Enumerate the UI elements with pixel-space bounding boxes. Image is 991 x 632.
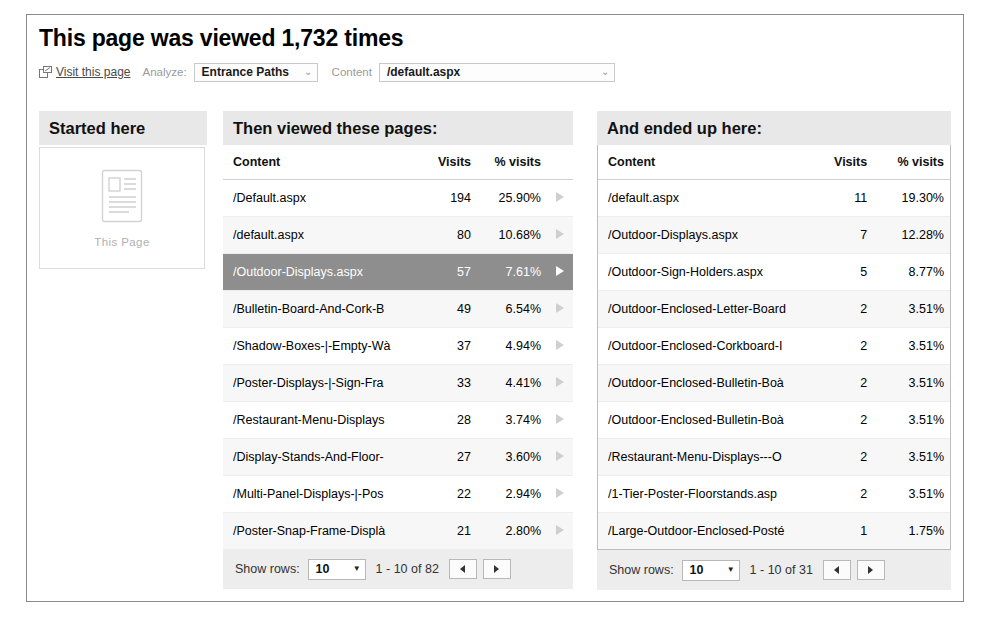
- analyze-label: Analyze:: [143, 66, 187, 78]
- show-rows-value: 10: [309, 562, 349, 576]
- table-row[interactable]: /Poster-Displays-|-Sign-Fra334.41%: [223, 365, 573, 402]
- then-viewed-rows: /Default.aspx19425.90%/default.aspx8010.…: [223, 180, 573, 550]
- row-content-cell[interactable]: /Outdoor-Enclosed-Letter-Board: [598, 291, 819, 328]
- row-pct-cell: 25.90%: [479, 180, 547, 217]
- row-content-cell[interactable]: /Outdoor-Sign-Holders.aspx: [598, 254, 819, 291]
- row-drilldown-button[interactable]: [547, 476, 573, 513]
- row-content-cell[interactable]: /Outdoor-Enclosed-Corkboard-I: [598, 328, 819, 365]
- then-viewed-heading: Then viewed these pages:: [233, 119, 437, 138]
- this-page-card[interactable]: This Page: [39, 147, 205, 269]
- row-content-cell[interactable]: /Bulletin-Board-And-Cork-B: [223, 291, 427, 328]
- analyze-select-value: Entrance Paths: [195, 65, 299, 79]
- chevron-down-icon: ▼: [349, 565, 365, 573]
- row-drilldown-button[interactable]: [547, 291, 573, 328]
- column-header-content[interactable]: Content: [598, 145, 819, 180]
- row-pct-cell: 6.54%: [479, 291, 547, 328]
- triangle-right-icon: [556, 414, 564, 424]
- column-header-content[interactable]: Content: [223, 145, 427, 180]
- pager-next-button[interactable]: [857, 560, 885, 580]
- row-content-cell[interactable]: /default.aspx: [223, 217, 427, 254]
- row-pct-cell: 10.68%: [479, 217, 547, 254]
- table-row[interactable]: /Restaurant-Menu-Displays283.74%: [223, 402, 573, 439]
- table-row[interactable]: /Outdoor-Enclosed-Letter-Board23.51%: [598, 291, 950, 328]
- show-rows-select[interactable]: 10 ▼: [682, 560, 740, 581]
- row-content-label: /Outdoor-Displays.aspx: [608, 228, 819, 242]
- table-row[interactable]: /Outdoor-Enclosed-Bulletin-Boà23.51%: [598, 365, 950, 402]
- show-rows-label: Show rows:: [609, 563, 674, 577]
- show-rows-value: 10: [683, 563, 723, 577]
- row-content-cell[interactable]: /1-Tier-Poster-Floorstands.asp: [598, 476, 819, 513]
- table-row[interactable]: /Outdoor-Enclosed-Bulletin-Boà23.51%: [598, 402, 950, 439]
- table-row[interactable]: /Outdoor-Sign-Holders.aspx58.77%: [598, 254, 950, 291]
- table-row[interactable]: /Display-Stands-And-Floor-273.60%: [223, 439, 573, 476]
- table-row[interactable]: /Default.aspx19425.90%: [223, 180, 573, 217]
- row-content-label: /Outdoor-Enclosed-Bulletin-Boà: [608, 376, 819, 390]
- pager-next-button[interactable]: [483, 559, 511, 579]
- table-row[interactable]: /Large-Outdoor-Enclosed-Posté11.75%: [598, 513, 950, 550]
- pager-range: 1 - 10 of 31: [750, 563, 813, 577]
- row-content-cell[interactable]: /Outdoor-Enclosed-Bulletin-Boà: [598, 402, 819, 439]
- analyze-select[interactable]: Entrance Paths ⌄: [194, 63, 318, 82]
- pager-prev-button[interactable]: [823, 560, 851, 580]
- table-row[interactable]: /Restaurant-Menu-Displays---O23.51%: [598, 439, 950, 476]
- row-visits-cell: 21: [427, 513, 479, 550]
- row-content-cell[interactable]: /Large-Outdoor-Enclosed-Posté: [598, 513, 819, 550]
- ended-up-here-column: And ended up here: Content Visits % visi…: [597, 111, 951, 590]
- row-pct-cell: 3.51%: [875, 365, 950, 402]
- row-content-label: /default.aspx: [608, 191, 819, 205]
- row-content-cell[interactable]: /Restaurant-Menu-Displays---O: [598, 439, 819, 476]
- row-content-cell[interactable]: /Outdoor-Displays.aspx: [598, 217, 819, 254]
- row-content-cell[interactable]: /Shadow-Boxes-|-Empty-Wà: [223, 328, 427, 365]
- show-rows-select[interactable]: 10 ▼: [308, 559, 366, 580]
- row-content-cell[interactable]: /Poster-Snap-Frame-Displà: [223, 513, 427, 550]
- row-drilldown-button[interactable]: [547, 254, 573, 291]
- table-row[interactable]: /Outdoor-Displays.aspx577.61%: [223, 254, 573, 291]
- column-header-visits[interactable]: Visits: [427, 145, 479, 180]
- table-row[interactable]: /Outdoor-Displays.aspx712.28%: [598, 217, 950, 254]
- row-drilldown-button[interactable]: [547, 217, 573, 254]
- row-visits-cell: 57: [427, 254, 479, 291]
- this-page-caption: This Page: [94, 236, 149, 248]
- content-label: Content: [332, 66, 372, 78]
- row-pct-cell: 4.41%: [479, 365, 547, 402]
- row-content-cell[interactable]: /Outdoor-Displays.aspx: [223, 254, 427, 291]
- chevron-right-icon: [868, 566, 873, 574]
- content-select[interactable]: /default.aspx ⌄: [379, 63, 615, 82]
- row-drilldown-button[interactable]: [547, 513, 573, 550]
- row-content-cell[interactable]: /Default.aspx: [223, 180, 427, 217]
- row-content-cell[interactable]: /default.aspx: [598, 180, 819, 217]
- then-viewed-header: Then viewed these pages:: [223, 111, 573, 145]
- row-content-cell[interactable]: /Multi-Panel-Displays-|-Pos: [223, 476, 427, 513]
- pager-prev-button[interactable]: [449, 559, 477, 579]
- row-content-cell[interactable]: /Poster-Displays-|-Sign-Fra: [223, 365, 427, 402]
- row-drilldown-button[interactable]: [547, 328, 573, 365]
- row-pct-cell: 3.74%: [479, 402, 547, 439]
- visit-this-page-link[interactable]: Visit this page: [39, 65, 131, 79]
- row-drilldown-button[interactable]: [547, 180, 573, 217]
- table-row[interactable]: /Poster-Snap-Frame-Displà212.80%: [223, 513, 573, 550]
- table-row[interactable]: /1-Tier-Poster-Floorstands.asp23.51%: [598, 476, 950, 513]
- row-content-cell[interactable]: /Outdoor-Enclosed-Bulletin-Boà: [598, 365, 819, 402]
- column-header-pct[interactable]: % visits: [875, 145, 950, 180]
- triangle-right-icon: [556, 451, 564, 461]
- table-row[interactable]: /Bulletin-Board-And-Cork-B496.54%: [223, 291, 573, 328]
- row-visits-cell: 2: [819, 476, 876, 513]
- row-content-label: /Outdoor-Enclosed-Letter-Board: [608, 302, 819, 316]
- row-content-cell[interactable]: /Display-Stands-And-Floor-: [223, 439, 427, 476]
- row-drilldown-button[interactable]: [547, 439, 573, 476]
- table-row[interactable]: /default.aspx8010.68%: [223, 217, 573, 254]
- row-drilldown-button[interactable]: [547, 365, 573, 402]
- triangle-right-icon: [556, 229, 564, 239]
- row-drilldown-button[interactable]: [547, 402, 573, 439]
- triangle-right-icon: [556, 266, 564, 276]
- table-row[interactable]: /default.aspx1119.30%: [598, 180, 950, 217]
- table-row[interactable]: /Outdoor-Enclosed-Corkboard-I23.51%: [598, 328, 950, 365]
- column-header-visits[interactable]: Visits: [819, 145, 876, 180]
- row-content-cell[interactable]: /Restaurant-Menu-Displays: [223, 402, 427, 439]
- row-visits-cell: 2: [819, 402, 876, 439]
- column-header-pct[interactable]: % visits: [479, 145, 547, 180]
- table-row[interactable]: /Shadow-Boxes-|-Empty-Wà374.94%: [223, 328, 573, 365]
- table-row[interactable]: /Multi-Panel-Displays-|-Pos222.94%: [223, 476, 573, 513]
- row-pct-cell: 3.51%: [875, 291, 950, 328]
- row-visits-cell: 2: [819, 291, 876, 328]
